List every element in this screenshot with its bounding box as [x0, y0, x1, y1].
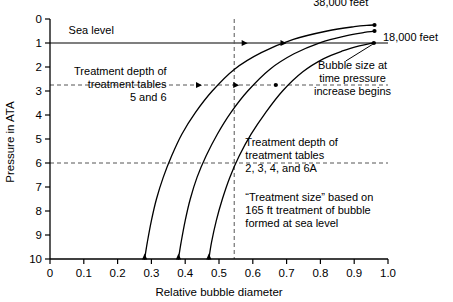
x-tick-label-0.5: 0.5	[211, 267, 227, 279]
x-tick-label-0.7: 0.7	[279, 267, 295, 279]
marker-1-3-dot	[372, 29, 376, 33]
label-38000: 38,000 feet	[313, 0, 368, 8]
y-tick-label-4: 4	[36, 109, 43, 121]
label-18000: 18,000 feet	[383, 31, 438, 43]
chart-svg: 01234567891000.10.20.30.40.50.60.70.80.9…	[0, 0, 453, 302]
y-tick-label-3: 3	[36, 85, 42, 97]
x-tick-label-0.8: 0.8	[312, 267, 328, 279]
marker-0-1-triangle-right	[196, 82, 202, 88]
x-tick-label-0.9: 0.9	[346, 267, 362, 279]
annotations-group: Sea level38,000 feet18,000 feetBubble si…	[69, 0, 438, 229]
x-tick-label-0.1: 0.1	[76, 267, 92, 279]
treatment-size-note-line-1: “Treatment size” based on	[245, 191, 373, 203]
treatment-2-3-4-6a-note-line-1: Treatment depth of	[245, 136, 338, 148]
y-tick-label-6: 6	[36, 157, 42, 169]
sea-level-label-line-1: Sea level	[69, 24, 114, 36]
treatment-2-3-4-6a-note: Treatment depth oftreatment tables2, 3, …	[245, 136, 338, 174]
treatment-5-6-note-line-2: treatment tables	[88, 78, 167, 90]
bubble-size-note-line-1: Bubble size at	[318, 59, 387, 71]
x-tick-label-0.2: 0.2	[110, 267, 126, 279]
y-tick-label-7: 7	[36, 181, 42, 193]
treatment-size-note-line-2: 165 ft treatment of bubble	[245, 204, 370, 216]
x-axis-title: Relative bubble diameter	[155, 286, 282, 298]
marker-0-3-dot	[372, 23, 376, 27]
label-38000-line-1: 38,000 feet	[313, 0, 368, 8]
treatment-size-note: “Treatment size” based on165 ft treatmen…	[245, 191, 373, 229]
y-axis-title: Pressure in ATA	[4, 101, 16, 183]
marker-0-2-triangle-right	[242, 40, 248, 46]
bubble-size-note-line-3: increase begins	[314, 85, 392, 97]
x-tick-label-0: 0	[47, 267, 53, 279]
marker-1-1-triangle-right	[233, 82, 239, 88]
y-tick-label-9: 9	[36, 229, 42, 241]
treatment-size-note-line-3: formed at sea level	[245, 217, 338, 229]
x-tick-label-1.0: 1.0	[380, 267, 396, 279]
treatment-5-6-note: Treatment depth oftreatment tables5 and …	[74, 65, 167, 103]
y-tick-label-5: 5	[36, 133, 42, 145]
marker-2-1-dot	[274, 83, 278, 87]
x-tick-label-0.3: 0.3	[143, 267, 159, 279]
label-18000-line-1: 18,000 feet	[383, 31, 438, 43]
treatment-5-6-note-line-3: 5 and 6	[130, 91, 167, 103]
treatment-2-3-4-6a-note-line-3: 2, 3, 4, and 6A	[245, 162, 317, 174]
bubble-size-note: Bubble size attime pressureincrease begi…	[314, 59, 392, 97]
bubble-pressure-chart-figure: 01234567891000.10.20.30.40.50.60.70.80.9…	[0, 0, 453, 302]
x-tick-label-0.6: 0.6	[245, 267, 261, 279]
treatment-2-3-4-6a-note-line-2: treatment tables	[245, 149, 324, 161]
x-tick-label-0.4: 0.4	[177, 267, 194, 279]
y-tick-label-10: 10	[29, 253, 42, 265]
y-tick-label-2: 2	[36, 61, 42, 73]
marker-1-2-triangle-right	[281, 40, 287, 46]
sea-level-label: Sea level	[69, 24, 114, 36]
bubble-size-note-line-2: time pressure	[319, 72, 386, 84]
y-tick-label-8: 8	[36, 205, 42, 217]
y-tick-label-0: 0	[36, 13, 42, 25]
treatment-5-6-note-line-1: Treatment depth of	[74, 65, 167, 77]
y-tick-label-1: 1	[36, 37, 42, 49]
